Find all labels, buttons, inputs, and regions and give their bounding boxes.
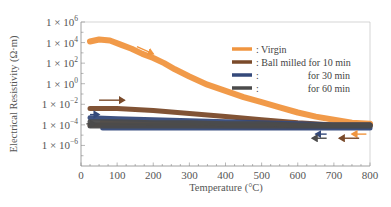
y-tick-label: 1 × 10−6	[42, 137, 78, 151]
y-tick-label: 1 × 100	[46, 76, 78, 90]
legend-label: :	[256, 83, 259, 94]
x-tick-label: 400	[217, 169, 234, 181]
legend-label: :	[256, 70, 259, 81]
y-tick-label: 1 × 102	[46, 55, 78, 69]
y-tick-label: 1 × 106	[46, 14, 78, 28]
resistivity-chart: 01002003004005006007008001 × 1061 × 1041…	[0, 0, 391, 207]
x-tick-label: 100	[109, 169, 126, 181]
y-tick-label: 1 × 10−2	[42, 96, 78, 110]
x-tick-label: 600	[290, 169, 307, 181]
x-tick-label: 300	[181, 169, 198, 181]
legend-label-suffix: for 30 min	[308, 70, 350, 81]
y-tick-label: 1 × 10−4	[42, 117, 78, 131]
legend: : Virgin: Ball milled for 10 min:for 30 …	[232, 44, 351, 94]
x-tick-label: 0	[78, 169, 84, 181]
y-tick-label: 1 × 104	[46, 35, 78, 49]
x-tick-label: 700	[326, 169, 343, 181]
x-axis-title: Temperature (°C)	[189, 182, 263, 194]
legend-label-suffix: for 60 min	[308, 83, 350, 94]
x-tick-label: 800	[362, 169, 379, 181]
x-tick-label: 500	[253, 169, 270, 181]
x-tick-label: 200	[145, 169, 162, 181]
legend-label: : Ball milled for 10 min	[256, 57, 351, 68]
legend-label: : Virgin	[256, 44, 286, 55]
y-axis-title: Electrical Resistivity (Ω·m)	[8, 35, 20, 152]
